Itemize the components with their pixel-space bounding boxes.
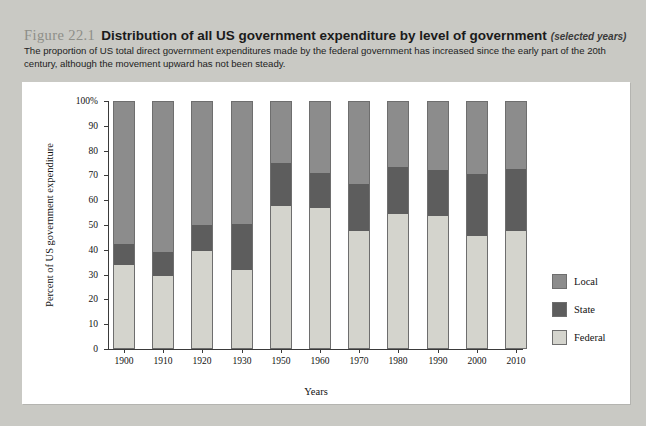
y-tick — [104, 299, 109, 300]
bar-segment-local — [309, 101, 331, 173]
y-axis-title: Percent of US government expenditure — [44, 143, 55, 307]
bar-1990[interactable] — [427, 101, 449, 349]
bar-segment-local — [427, 101, 449, 170]
bar-1930[interactable] — [231, 101, 253, 349]
bar-segment-state — [427, 170, 449, 216]
bar-segment-local — [387, 101, 409, 167]
legend-item-state[interactable]: State — [552, 302, 606, 317]
y-tick-label: 90 — [89, 121, 99, 131]
x-tick — [281, 349, 282, 353]
legend-swatch-icon — [552, 274, 567, 289]
bar-segment-federal — [505, 231, 527, 349]
plot-area: 0102030405060708090100% Percent of US go… — [109, 101, 523, 349]
x-tick — [320, 349, 321, 353]
x-tick — [516, 349, 517, 353]
y-tick-label: 100% — [76, 96, 98, 106]
bar-segment-federal — [387, 214, 409, 349]
x-tick — [124, 349, 125, 353]
y-tick-label: 60 — [89, 195, 99, 205]
bar-1920[interactable] — [191, 101, 213, 349]
x-tick-label: 2010 — [496, 356, 536, 366]
bar-segment-state — [466, 174, 488, 236]
x-tick — [242, 349, 243, 353]
y-tick — [104, 250, 109, 251]
legend-swatch-icon — [552, 330, 567, 345]
y-tick-label: 30 — [89, 270, 99, 280]
legend-item-local[interactable]: Local — [552, 274, 606, 289]
x-tick-label: 1950 — [261, 356, 301, 366]
x-axis-line — [108, 349, 523, 350]
x-axis-title: Years — [109, 386, 523, 397]
bar-segment-federal — [270, 206, 292, 349]
bar-2010[interactable] — [505, 101, 527, 349]
x-tick — [359, 349, 360, 353]
figure-number: Figure 22.1 — [24, 27, 95, 43]
bar-segment-local — [466, 101, 488, 174]
x-tick-label: 1970 — [339, 356, 379, 366]
y-tick-label: 20 — [89, 294, 99, 304]
bar-segment-state — [387, 167, 409, 214]
bar-segment-local — [191, 101, 213, 225]
bar-1950[interactable] — [270, 101, 292, 349]
x-tick-label: 1980 — [378, 356, 418, 366]
x-tick — [398, 349, 399, 353]
bar-1970[interactable] — [348, 101, 370, 349]
bar-segment-state — [309, 173, 331, 208]
y-tick — [104, 101, 109, 102]
bar-segment-local — [505, 101, 527, 169]
chart-legend: LocalStateFederal — [552, 274, 606, 358]
legend-swatch-icon — [552, 302, 567, 317]
bar-segment-state — [505, 169, 527, 231]
legend-item-federal[interactable]: Federal — [552, 330, 606, 345]
x-tick — [477, 349, 478, 353]
bar-segment-state — [191, 225, 213, 251]
bar-segment-federal — [113, 265, 135, 349]
y-tick — [104, 151, 109, 152]
bar-1910[interactable] — [152, 101, 174, 349]
bar-segment-local — [270, 101, 292, 163]
bar-segment-federal — [191, 251, 213, 349]
figure-caption: The proportion of US total direct govern… — [24, 44, 624, 70]
bar-2000[interactable] — [466, 101, 488, 349]
y-tick — [104, 275, 109, 276]
x-tick-label: 1900 — [104, 356, 144, 366]
bar-segment-state — [270, 163, 292, 206]
y-tick-label: 70 — [89, 170, 99, 180]
legend-label: Federal — [574, 332, 606, 343]
bar-segment-federal — [231, 270, 253, 349]
legend-label: State — [574, 304, 595, 315]
figure-subtitle: (selected years) — [551, 31, 627, 42]
y-tick — [104, 225, 109, 226]
bar-segment-local — [348, 101, 370, 184]
y-tick-label: 40 — [89, 245, 99, 255]
y-tick-label: 80 — [89, 146, 99, 156]
bar-1900[interactable] — [113, 101, 135, 349]
bar-segment-state — [152, 252, 174, 276]
bar-segment-state — [348, 184, 370, 231]
bar-segment-local — [113, 101, 135, 244]
bar-segment-federal — [466, 236, 488, 349]
bar-segment-local — [152, 101, 174, 252]
y-tick — [104, 126, 109, 127]
y-tick-label: 0 — [93, 344, 98, 354]
bar-segment-state — [231, 224, 253, 270]
bar-segment-federal — [348, 231, 370, 349]
y-tick — [104, 200, 109, 201]
y-tick — [104, 349, 109, 350]
page-title: Distribution of all US government expend… — [101, 28, 547, 43]
bar-1980[interactable] — [387, 101, 409, 349]
y-tick — [104, 175, 109, 176]
x-tick-label: 1960 — [300, 356, 340, 366]
x-tick-label: 2000 — [457, 356, 497, 366]
bar-1960[interactable] — [309, 101, 331, 349]
bar-segment-state — [113, 244, 135, 265]
figure-title-line: Figure 22.1Distribution of all US govern… — [24, 26, 626, 44]
x-tick-label: 1990 — [418, 356, 458, 366]
y-tick — [104, 324, 109, 325]
x-tick — [163, 349, 164, 353]
x-tick-label: 1910 — [143, 356, 183, 366]
bar-segment-federal — [309, 208, 331, 349]
x-tick — [202, 349, 203, 353]
bar-segment-federal — [427, 216, 449, 349]
x-tick-label: 1930 — [222, 356, 262, 366]
